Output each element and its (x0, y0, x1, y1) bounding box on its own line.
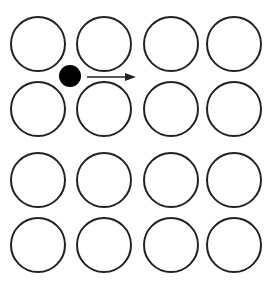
lattice-atom-r2-c4 (207, 82, 261, 136)
lattice-atom-r4-c4 (207, 218, 261, 272)
lattice-atom-r3-c1 (11, 153, 65, 207)
lattice-atom-r3-c3 (144, 153, 198, 207)
lattice-diagram (0, 0, 265, 293)
lattice-atom-r1-c2 (77, 17, 131, 71)
motion-arrow (87, 73, 136, 81)
lattice-atom-r1-c1 (11, 17, 65, 71)
lattice-atom-r1-c4 (207, 17, 261, 71)
arrow-head-icon (125, 73, 136, 81)
lattice-atom-r4-c1 (11, 218, 65, 272)
lattice-atom-r1-c3 (144, 17, 198, 71)
lattice-atom-r2-c1 (11, 82, 65, 136)
lattice-atom-r2-c3 (144, 82, 198, 136)
interstitial-particle (59, 65, 81, 87)
lattice-atoms (11, 17, 261, 272)
lattice-atom-r2-c2 (77, 82, 131, 136)
lattice-atom-r4-c3 (144, 218, 198, 272)
lattice-atom-r4-c2 (77, 218, 131, 272)
lattice-atom-r3-c4 (207, 153, 261, 207)
lattice-atom-r3-c2 (77, 153, 131, 207)
